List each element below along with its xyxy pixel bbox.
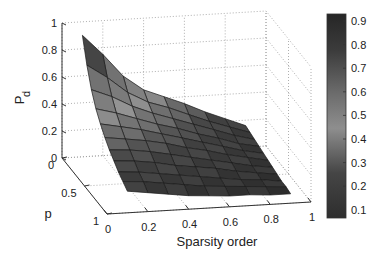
y-tick-label: 0.5 [61, 187, 76, 199]
z-axis-label-subscript: d [20, 91, 32, 97]
y-tick-label: 0 [48, 159, 54, 171]
x-tick-label: 0.4 [182, 218, 197, 230]
x-axis-label: Sparsity order [177, 234, 259, 249]
colorbar-tick-label: 0.5 [351, 109, 366, 121]
surface-plot: 00.20.40.60.8100.20.40.60.8100.51 P d p … [0, 0, 382, 261]
colorbar: 0.90.80.70.60.50.40.30.20.1 [327, 14, 366, 218]
surface-patch [123, 182, 148, 193]
colorbar-tick-label: 0.6 [351, 86, 366, 98]
x-tick-label: 0 [105, 223, 111, 235]
colorbar-tick-label: 0.8 [351, 39, 366, 51]
colorbar-tick-label: 0.9 [351, 15, 366, 27]
colorbar-tick-label: 0.1 [351, 204, 366, 216]
x-tick-label: 0.2 [141, 221, 156, 233]
surface-mesh [82, 35, 290, 196]
colorbar-tick-label: 0.7 [351, 62, 366, 74]
y-tick-label: 1 [93, 215, 99, 227]
z-tick-label: 0.2 [42, 125, 57, 137]
z-tick-label: 0.8 [42, 44, 57, 56]
x-tick-label: 1 [309, 211, 315, 223]
colorbar-tick-label: 0.4 [351, 133, 366, 145]
x-tick-label: 0.6 [223, 216, 238, 228]
z-tick-label: 0.6 [42, 71, 57, 83]
surface-patch [114, 161, 139, 172]
colorbar-tick-label: 0.2 [351, 180, 366, 192]
surface-patch [109, 150, 134, 161]
surface-patch [118, 172, 143, 182]
colorbar-tick-label: 0.3 [351, 157, 366, 169]
z-tick-label: 1 [51, 17, 57, 29]
z-tick-label: 0.4 [42, 98, 57, 110]
y-axis-label: p [44, 206, 51, 221]
x-tick-label: 0.8 [264, 213, 279, 225]
